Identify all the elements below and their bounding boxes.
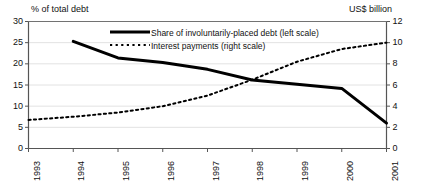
left-tick-label: 10 bbox=[3, 102, 23, 111]
left-tick-label: 25 bbox=[3, 38, 23, 47]
legend-label-dotted: Interest payments (right scale) bbox=[151, 41, 265, 51]
chart-container: % of total debt US$ billion Share of inv… bbox=[0, 0, 423, 193]
x-tick-label: 2001 bbox=[391, 160, 400, 180]
x-tick-label: 1999 bbox=[301, 160, 310, 180]
legend-label-solid: Share of involuntarily-placed debt (left… bbox=[151, 28, 319, 38]
left-tick-label: 15 bbox=[3, 81, 23, 90]
x-tick-label: 1998 bbox=[256, 160, 265, 180]
x-tick-label: 2000 bbox=[346, 160, 355, 180]
data-series-layer bbox=[29, 41, 387, 123]
x-tick-label: 1993 bbox=[33, 160, 42, 180]
x-tick-label: 1996 bbox=[167, 160, 176, 180]
left-tick-label: 20 bbox=[3, 59, 23, 68]
left-tick-label: 0 bbox=[3, 144, 23, 153]
x-tick-label: 1995 bbox=[122, 160, 131, 180]
x-tick-label: 1997 bbox=[212, 160, 221, 180]
right-tick-label: 12 bbox=[393, 17, 415, 26]
series-line-1 bbox=[73, 41, 386, 123]
right-tick-label: 10 bbox=[393, 38, 415, 47]
x-tick-label: 1994 bbox=[77, 160, 86, 180]
left-tick-label: 5 bbox=[3, 123, 23, 132]
left-tick-label: 30 bbox=[3, 17, 23, 26]
right-tick-label: 4 bbox=[393, 102, 415, 111]
series-line-2 bbox=[29, 43, 387, 120]
right-tick-label: 2 bbox=[393, 123, 415, 132]
right-tick-label: 6 bbox=[393, 81, 415, 90]
right-tick-label: 0 bbox=[393, 144, 415, 153]
right-tick-label: 8 bbox=[393, 59, 415, 68]
